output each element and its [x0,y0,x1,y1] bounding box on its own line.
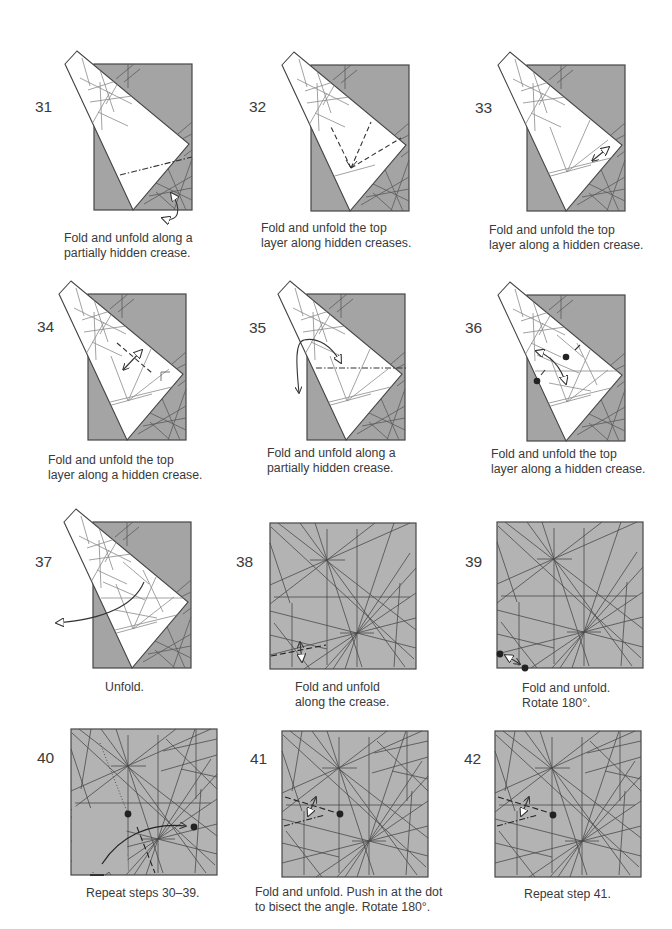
step-number: 37 [35,553,52,571]
reference-dot [522,665,529,672]
step-caption: Unfold. [105,680,144,695]
step-36-diagram [498,282,625,441]
step-33-diagram [498,52,625,211]
caption-line: Fold and unfold the top [491,447,646,462]
step-number: 35 [249,319,266,337]
caption-line: Fold and unfold along a [64,231,193,246]
caption-line: Fold and unfold the top [489,223,644,238]
step-number: 39 [465,553,482,571]
step-34-diagram [59,281,186,440]
step-caption: Fold and unfold along a partially hidden… [64,231,193,261]
step-number: 42 [464,750,481,768]
caption-line: layer along a hidden crease. [489,238,644,253]
caption-line: Fold and unfold. [522,681,610,696]
push-dot [550,812,557,819]
caption-line: Fold and unfold the top [48,453,203,468]
caption-line: to bisect the angle. Rotate 180°. [255,900,442,915]
step-40-diagram [71,729,217,875]
step-number: 41 [250,750,267,768]
step-caption: Repeat step 41. [524,887,611,902]
caption-line: partially hidden crease. [267,461,396,476]
step-39-diagram [497,522,643,671]
step-37-diagram [56,509,191,668]
step-number: 40 [37,749,54,767]
caption-line: Fold and unfold. Push in at the dot [255,885,442,900]
step-caption: Repeat steps 30–39. [86,886,200,901]
step-caption: Fold and unfold the top layer along a hi… [48,453,203,483]
step-caption: Fold and unfold the top layer along hidd… [261,221,411,251]
step-caption: Fold and unfold. Rotate 180°. [522,681,610,711]
reference-dot [534,378,541,385]
caption-line: Repeat step 41. [524,887,611,902]
step-caption: Fold and unfold the top layer along a hi… [491,447,646,477]
push-dot [337,811,344,818]
step-32-diagram [282,52,409,211]
step-31-diagram [65,51,192,219]
step-number: 32 [249,98,266,116]
caption-line: Fold and unfold the top [261,221,411,236]
reference-dot [497,651,504,658]
step-caption: Fold and unfold. Push in at the dot to b… [255,885,442,915]
step-35-diagram [278,281,406,440]
step-number: 34 [37,318,54,336]
step-number: 31 [35,98,52,116]
caption-line: Fold and unfold [295,680,389,695]
reference-dot [191,824,198,831]
reference-dot [125,811,132,818]
caption-line: partially hidden crease. [64,246,193,261]
step-41-diagram [282,731,428,877]
step-38-diagram [270,523,416,669]
caption-line: Unfold. [105,680,144,695]
caption-line: along the crease. [295,695,389,710]
caption-line: layer along a hidden crease. [491,462,646,477]
caption-line: Fold and unfold along a [267,446,396,461]
step-number: 33 [475,99,492,117]
caption-line: layer along a hidden crease. [48,468,203,483]
step-caption: Fold and unfold along a partially hidden… [267,446,396,476]
caption-line: layer along hidden creases. [261,236,411,251]
caption-line: Repeat steps 30–39. [86,886,200,901]
step-number: 36 [465,319,482,337]
reference-dot [563,354,570,361]
step-number: 38 [236,553,253,571]
caption-line: Rotate 180°. [522,696,610,711]
step-caption: Fold and unfold along the crease. [295,680,389,710]
step-42-diagram [495,731,641,877]
step-caption: Fold and unfold the top layer along a hi… [489,223,644,253]
